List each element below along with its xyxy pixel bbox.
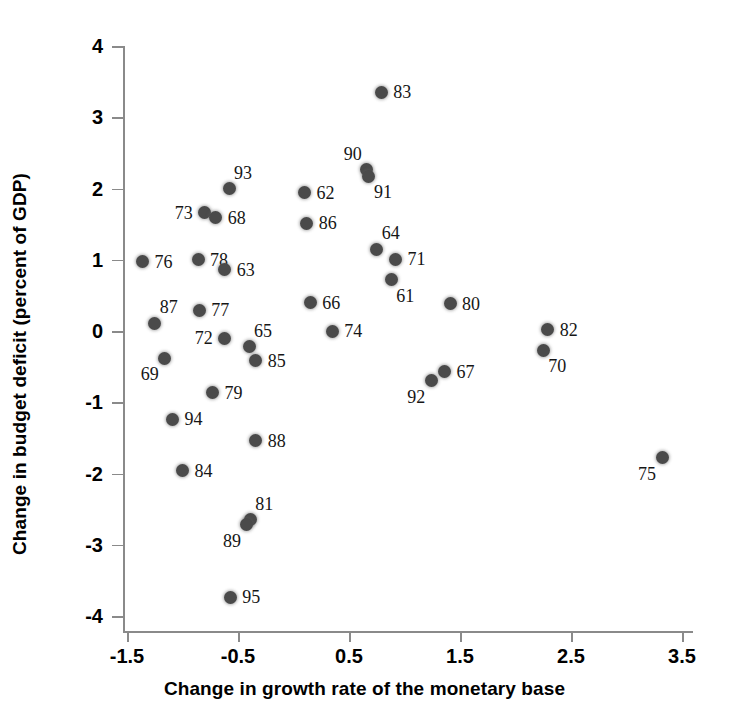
data-point-label: 84 xyxy=(195,460,213,481)
data-point[interactable] xyxy=(385,273,398,286)
data-point[interactable] xyxy=(249,434,262,447)
x-tick-label: -1.5 xyxy=(82,645,172,668)
data-point-label: 93 xyxy=(234,163,252,184)
plot-area: 43210-1-2-3-4 -1.5-0.50.51.52.53.5 83909… xyxy=(0,0,729,728)
data-point[interactable] xyxy=(148,317,161,330)
data-point-label: 82 xyxy=(560,319,578,340)
data-point-label: 89 xyxy=(223,531,241,552)
data-point-label: 88 xyxy=(268,430,286,451)
data-point[interactable] xyxy=(375,86,388,99)
x-tick-label: 3.5 xyxy=(637,645,727,668)
data-point-label: 94 xyxy=(185,409,203,430)
data-point-label: 68 xyxy=(228,207,246,228)
data-point-label: 90 xyxy=(344,144,362,165)
data-point[interactable] xyxy=(304,296,317,309)
data-point[interactable] xyxy=(389,253,402,266)
data-point[interactable] xyxy=(223,182,236,195)
data-point-label: 64 xyxy=(382,223,400,244)
data-point-label: 67 xyxy=(456,361,474,382)
x-tick-label: -0.5 xyxy=(193,645,283,668)
data-point[interactable] xyxy=(206,386,219,399)
data-point-label: 92 xyxy=(407,387,425,408)
data-point[interactable] xyxy=(444,297,457,310)
scatter-chart: 43210-1-2-3-4 -1.5-0.50.51.52.53.5 83909… xyxy=(0,0,729,728)
data-point[interactable] xyxy=(166,413,179,426)
data-point[interactable] xyxy=(158,352,171,365)
data-point[interactable] xyxy=(362,170,375,183)
y-tick-mark xyxy=(112,616,123,618)
x-tick-mark xyxy=(127,631,129,642)
y-tick-mark xyxy=(112,117,123,119)
x-tick-mark xyxy=(460,631,462,642)
data-point-label: 61 xyxy=(396,286,414,307)
x-tick-label: 2.5 xyxy=(526,645,616,668)
data-point[interactable] xyxy=(136,255,149,268)
y-tick-mark xyxy=(112,189,123,191)
data-point[interactable] xyxy=(240,518,253,531)
data-point-label: 77 xyxy=(211,300,229,321)
y-axis-line xyxy=(123,46,125,632)
y-tick-mark xyxy=(112,545,123,547)
x-tick-label: 0.5 xyxy=(304,645,394,668)
data-point-label: 62 xyxy=(317,182,335,203)
data-point-label: 65 xyxy=(254,321,272,342)
data-point-label: 76 xyxy=(155,251,173,272)
data-point-label: 63 xyxy=(237,259,255,280)
data-point-label: 71 xyxy=(408,249,426,270)
data-point-label: 74 xyxy=(344,321,362,342)
data-point[interactable] xyxy=(541,323,554,336)
data-point[interactable] xyxy=(537,344,550,357)
data-point[interactable] xyxy=(656,451,669,464)
data-point[interactable] xyxy=(176,464,189,477)
data-point-label: 91 xyxy=(374,182,392,203)
data-point-label: 86 xyxy=(319,213,337,234)
data-point-label: 69 xyxy=(141,364,159,385)
data-point[interactable] xyxy=(326,325,339,338)
y-tick-mark xyxy=(112,402,123,404)
data-point[interactable] xyxy=(192,253,205,266)
data-point[interactable] xyxy=(298,186,311,199)
data-point-label: 80 xyxy=(462,293,480,314)
data-point[interactable] xyxy=(193,304,206,317)
data-point[interactable] xyxy=(218,263,231,276)
y-tick-mark xyxy=(112,260,123,262)
data-point-label: 83 xyxy=(393,82,411,103)
data-point[interactable] xyxy=(425,374,438,387)
x-axis-title: Change in growth rate of the monetary ba… xyxy=(0,678,729,700)
data-point-label: 72 xyxy=(195,328,213,349)
data-point[interactable] xyxy=(249,354,262,367)
data-point-label: 73 xyxy=(175,202,193,223)
x-tick-mark xyxy=(238,631,240,642)
data-point-label: 87 xyxy=(160,297,178,318)
y-tick-mark xyxy=(112,46,123,48)
x-tick-mark xyxy=(571,631,573,642)
data-point[interactable] xyxy=(218,332,231,345)
x-tick-mark xyxy=(349,631,351,642)
data-point-label: 75 xyxy=(638,464,656,485)
data-point-label: 79 xyxy=(224,382,242,403)
data-point[interactable] xyxy=(243,340,256,353)
data-point-label: 85 xyxy=(268,350,286,371)
y-tick-mark xyxy=(112,474,123,476)
data-point-label: 81 xyxy=(255,494,273,515)
data-point-label: 66 xyxy=(322,292,340,313)
data-point[interactable] xyxy=(438,365,451,378)
x-tick-mark xyxy=(682,631,684,642)
y-axis-title: Change in budget deficit (percent of GDP… xyxy=(0,0,40,728)
data-point[interactable] xyxy=(224,591,237,604)
x-tick-label: 1.5 xyxy=(415,645,505,668)
data-point-label: 95 xyxy=(242,587,260,608)
x-axis-line xyxy=(123,631,693,633)
data-point[interactable] xyxy=(370,243,383,256)
data-point[interactable] xyxy=(209,211,222,224)
data-point[interactable] xyxy=(300,217,313,230)
y-tick-mark xyxy=(112,331,123,333)
data-point-label: 70 xyxy=(548,356,566,377)
